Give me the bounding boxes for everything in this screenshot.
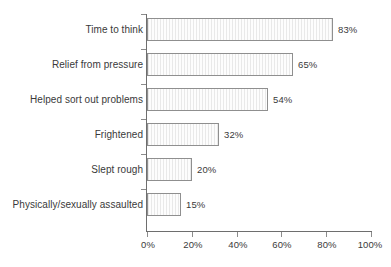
x-axis-tick-label-0: 0% xyxy=(141,239,155,250)
bar-value-time-to-think: 83% xyxy=(338,24,357,35)
x-axis-tick-label-60: 60% xyxy=(272,239,291,250)
x-axis-tick-label-100: 100% xyxy=(358,239,383,250)
bar-slept-rough xyxy=(147,158,192,181)
y-axis-tick xyxy=(141,14,146,15)
x-axis-tick xyxy=(281,232,282,237)
x-axis-tick xyxy=(326,232,327,237)
category-label-relief-from-pressure: Relief from pressure xyxy=(52,59,143,70)
category-label-time-to-think: Time to think xyxy=(85,24,143,35)
x-axis-tick xyxy=(192,232,193,237)
x-axis-tick xyxy=(237,232,238,237)
x-axis-tick xyxy=(371,232,372,237)
x-axis-tick xyxy=(147,232,148,237)
y-axis-tick xyxy=(141,84,146,85)
category-label-helped-sort-out-problems: Helped sort out problems xyxy=(30,94,143,105)
bar-frightened xyxy=(147,123,219,146)
bar-value-relief-from-pressure: 65% xyxy=(298,59,317,70)
category-label-slept-rough: Slept rough xyxy=(91,164,143,175)
bar-value-helped-sort-out-problems: 54% xyxy=(273,94,292,105)
category-label-frightened: Frightened xyxy=(95,129,143,140)
category-label-physically-sexually-assaulted: Physically/sexually assaulted xyxy=(13,199,143,210)
y-axis-tick xyxy=(141,154,146,155)
bar-relief-from-pressure xyxy=(147,53,293,76)
x-axis-tick-label-20: 20% xyxy=(183,239,202,250)
x-axis-tick-label-40: 40% xyxy=(228,239,247,250)
y-axis-tick xyxy=(141,189,146,190)
y-axis-tick xyxy=(141,49,146,50)
x-axis-line xyxy=(146,231,372,232)
bar-time-to-think xyxy=(147,18,333,41)
y-axis-tick xyxy=(141,119,146,120)
bar-physically-sexually-assaulted xyxy=(147,193,181,216)
bar-value-slept-rough: 20% xyxy=(197,164,216,175)
bar-value-frightened: 32% xyxy=(224,129,243,140)
x-axis-tick-label-80: 80% xyxy=(317,239,336,250)
bar-helped-sort-out-problems xyxy=(147,88,268,111)
bar-value-physically-sexually-assaulted: 15% xyxy=(186,199,205,210)
bar-chart: Time to think Relief from pressure Helpe… xyxy=(0,0,391,267)
